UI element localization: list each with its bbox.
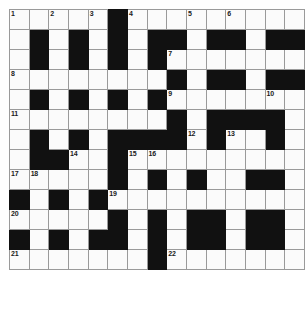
crossword-cell[interactable] xyxy=(186,110,206,130)
crossword-cell[interactable] xyxy=(29,230,49,250)
crossword-cell[interactable] xyxy=(226,150,246,170)
crossword-cell[interactable] xyxy=(226,90,246,110)
crossword-cell[interactable] xyxy=(68,230,88,250)
crossword-cell[interactable] xyxy=(127,230,147,250)
crossword-cell[interactable] xyxy=(49,110,69,130)
crossword-cell[interactable] xyxy=(29,250,49,270)
crossword-cell[interactable] xyxy=(88,170,108,190)
crossword-cell[interactable] xyxy=(108,70,128,90)
crossword-cell[interactable] xyxy=(49,50,69,70)
crossword-cell[interactable] xyxy=(147,70,167,90)
crossword-cell[interactable] xyxy=(285,150,305,170)
crossword-cell[interactable] xyxy=(127,90,147,110)
crossword-cell[interactable] xyxy=(127,110,147,130)
crossword-cell[interactable] xyxy=(68,10,88,30)
crossword-cell[interactable] xyxy=(49,90,69,110)
crossword-cell[interactable] xyxy=(127,210,147,230)
crossword-cell[interactable] xyxy=(206,250,226,270)
crossword-cell[interactable] xyxy=(226,190,246,210)
crossword-cell[interactable] xyxy=(10,130,30,150)
crossword-cell[interactable] xyxy=(186,190,206,210)
crossword-cell[interactable] xyxy=(226,170,246,190)
crossword-cell[interactable] xyxy=(245,130,265,150)
crossword-cell[interactable] xyxy=(167,170,187,190)
crossword-cell[interactable]: 18 xyxy=(29,170,49,190)
crossword-cell[interactable] xyxy=(68,250,88,270)
crossword-cell[interactable] xyxy=(167,10,187,30)
crossword-cell[interactable] xyxy=(245,190,265,210)
crossword-cell[interactable] xyxy=(285,130,305,150)
crossword-cell[interactable] xyxy=(49,210,69,230)
crossword-cell[interactable] xyxy=(265,190,285,210)
crossword-cell[interactable] xyxy=(49,130,69,150)
crossword-cell[interactable] xyxy=(10,50,30,70)
crossword-cell[interactable]: 2 xyxy=(49,10,69,30)
crossword-cell[interactable] xyxy=(29,190,49,210)
crossword-cell[interactable] xyxy=(167,210,187,230)
crossword-cell[interactable] xyxy=(226,230,246,250)
crossword-cell[interactable] xyxy=(265,10,285,30)
crossword-cell[interactable] xyxy=(226,50,246,70)
crossword-cell[interactable]: 14 xyxy=(68,150,88,170)
crossword-cell[interactable] xyxy=(206,10,226,30)
crossword-cell[interactable] xyxy=(29,210,49,230)
crossword-cell[interactable]: 19 xyxy=(108,190,128,210)
crossword-cell[interactable]: 16 xyxy=(147,150,167,170)
crossword-cell[interactable]: 15 xyxy=(127,150,147,170)
crossword-cell[interactable] xyxy=(29,110,49,130)
crossword-cell[interactable] xyxy=(285,210,305,230)
crossword-cell[interactable] xyxy=(88,250,108,270)
crossword-cell[interactable] xyxy=(186,250,206,270)
crossword-cell[interactable]: 21 xyxy=(10,250,30,270)
crossword-cell[interactable] xyxy=(68,170,88,190)
crossword-cell[interactable] xyxy=(68,70,88,90)
crossword-cell[interactable] xyxy=(127,170,147,190)
crossword-cell[interactable] xyxy=(186,30,206,50)
crossword-cell[interactable]: 7 xyxy=(167,50,187,70)
crossword-cell[interactable]: 5 xyxy=(186,10,206,30)
crossword-cell[interactable] xyxy=(29,10,49,30)
crossword-cell[interactable] xyxy=(245,30,265,50)
crossword-cell[interactable] xyxy=(49,170,69,190)
crossword-cell[interactable] xyxy=(265,250,285,270)
crossword-cell[interactable] xyxy=(88,150,108,170)
crossword-cell[interactable] xyxy=(147,190,167,210)
crossword-cell[interactable]: 10 xyxy=(265,90,285,110)
crossword-cell[interactable]: 13 xyxy=(226,130,246,150)
crossword-cell[interactable] xyxy=(127,190,147,210)
crossword-cell[interactable] xyxy=(147,10,167,30)
crossword-grid[interactable]: 12345678910111213141516171819202122 xyxy=(9,9,305,270)
crossword-cell[interactable] xyxy=(285,90,305,110)
crossword-cell[interactable] xyxy=(10,90,30,110)
crossword-cell[interactable] xyxy=(186,150,206,170)
crossword-cell[interactable] xyxy=(49,250,69,270)
crossword-cell[interactable] xyxy=(147,110,167,130)
crossword-cell[interactable]: 20 xyxy=(10,210,30,230)
crossword-cell[interactable]: 4 xyxy=(127,10,147,30)
crossword-cell[interactable] xyxy=(226,210,246,230)
crossword-cell[interactable] xyxy=(88,130,108,150)
crossword-cell[interactable] xyxy=(206,170,226,190)
crossword-cell[interactable] xyxy=(285,230,305,250)
crossword-cell[interactable] xyxy=(127,30,147,50)
crossword-cell[interactable] xyxy=(206,190,226,210)
crossword-cell[interactable] xyxy=(265,50,285,70)
crossword-cell[interactable] xyxy=(206,50,226,70)
crossword-cell[interactable] xyxy=(245,50,265,70)
crossword-cell[interactable] xyxy=(265,150,285,170)
crossword-cell[interactable] xyxy=(245,250,265,270)
crossword-cell[interactable] xyxy=(88,90,108,110)
crossword-cell[interactable] xyxy=(226,250,246,270)
crossword-cell[interactable] xyxy=(285,10,305,30)
crossword-cell[interactable] xyxy=(285,110,305,130)
crossword-cell[interactable] xyxy=(245,70,265,90)
crossword-cell[interactable]: 11 xyxy=(10,110,30,130)
crossword-cell[interactable] xyxy=(49,70,69,90)
crossword-cell[interactable] xyxy=(68,190,88,210)
crossword-cell[interactable] xyxy=(10,30,30,50)
crossword-cell[interactable] xyxy=(88,210,108,230)
crossword-cell[interactable] xyxy=(186,50,206,70)
crossword-cell[interactable] xyxy=(285,170,305,190)
crossword-cell[interactable] xyxy=(245,90,265,110)
crossword-cell[interactable]: 1 xyxy=(10,10,30,30)
